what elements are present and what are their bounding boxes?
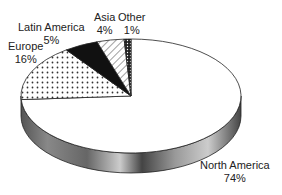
label-other: Other 1% <box>118 11 146 37</box>
label-latin-america: Latin America 5% <box>18 21 85 47</box>
label-asia: Asia 4% <box>94 11 115 37</box>
pie-slices <box>21 39 241 153</box>
label-north-america: North America 74% <box>200 159 270 185</box>
